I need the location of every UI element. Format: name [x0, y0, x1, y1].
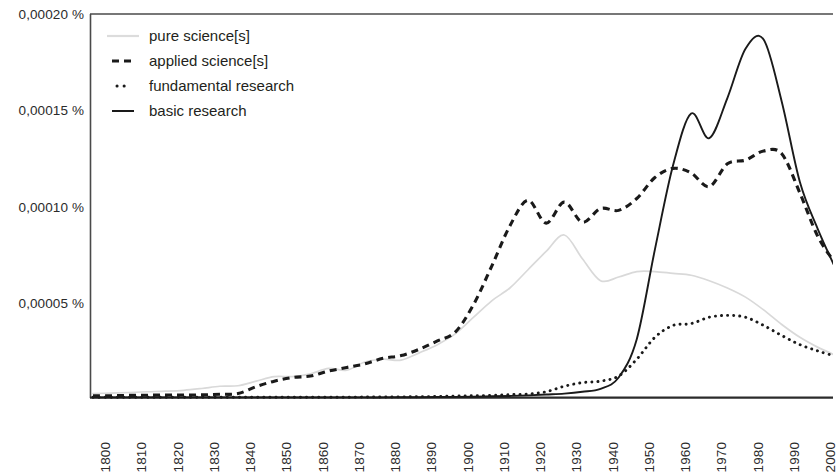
legend-item-basic-research: basic research — [105, 98, 365, 123]
x-axis-tick-label: 1960 — [679, 442, 693, 472]
x-axis-tick-label: 1890 — [425, 442, 439, 472]
x-axis-tick-label: 1980 — [752, 442, 766, 472]
x-axis-tick-label: 1810 — [135, 442, 149, 472]
x-axis-tick-label: 1880 — [389, 442, 403, 472]
x-axis-tick-label: 1840 — [244, 442, 258, 472]
legend-item-pure-science: pure science[s] — [105, 23, 365, 48]
legend-label: fundamental research — [141, 78, 294, 93]
x-axis-tick-label: 1930 — [570, 442, 584, 472]
solid-line-icon — [105, 104, 141, 118]
legend-label: applied science[s] — [141, 53, 268, 68]
x-axis-label-group: 1800181018201830184018501860187018801890… — [0, 404, 833, 445]
x-axis-tick-label: 1950 — [643, 442, 657, 472]
legend-label: basic research — [141, 103, 247, 118]
x-axis-tick-label: 1900 — [462, 442, 476, 472]
x-axis-tick-label: 1870 — [353, 442, 367, 472]
dashed-line-icon — [105, 54, 141, 68]
x-axis-tick-label: 1990 — [788, 442, 802, 472]
solid-light-line-icon — [105, 29, 141, 43]
x-axis-tick-label: 1820 — [172, 442, 186, 472]
x-axis-tick-label: 1860 — [317, 442, 331, 472]
legend-item-applied-science: applied science[s] — [105, 48, 365, 73]
x-axis-tick-label: 1940 — [607, 442, 621, 472]
dotted-line-icon — [105, 79, 141, 93]
legend-label: pure science[s] — [141, 28, 250, 43]
legend-item-fundamental-research: fundamental research — [105, 73, 365, 98]
series-line-applied-science — [93, 149, 833, 395]
legend: pure science[s] applied science[s] funda… — [105, 23, 365, 123]
x-axis-tick-label: 1830 — [208, 442, 222, 472]
x-axis-tick-label: 1910 — [498, 442, 512, 472]
x-axis-tick-label: 1920 — [534, 442, 548, 472]
x-axis-tick-label: 1800 — [99, 442, 113, 472]
x-axis-tick-label: 1970 — [715, 442, 729, 472]
x-axis-tick-label: 1850 — [280, 442, 294, 472]
x-axis-tick-label: 2000 — [824, 442, 838, 472]
